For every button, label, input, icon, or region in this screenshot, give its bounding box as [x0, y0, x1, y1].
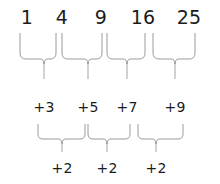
first-difference-4: +9: [164, 100, 185, 114]
first-difference-2: +5: [77, 100, 98, 114]
term-1: 1: [21, 8, 33, 27]
brace-1-4-icon: [20, 33, 56, 64]
brace-5-7-icon: [88, 124, 130, 144]
first-difference-1: +3: [33, 100, 54, 114]
term-5: 25: [177, 8, 202, 27]
term-4: 16: [131, 8, 156, 27]
brace-7-9-icon: [138, 124, 183, 144]
brace-9-16-icon: [107, 33, 145, 64]
term-3: 9: [95, 8, 107, 27]
brace-4-9-icon: [62, 33, 102, 64]
second-difference-1: +2: [51, 161, 72, 175]
brace-16-25-icon: [153, 33, 195, 64]
second-difference-2: +2: [96, 161, 117, 175]
second-difference-3: +2: [145, 161, 166, 175]
brace-3-5-icon: [38, 124, 85, 144]
finite-difference-diagram: 1 4 9 16 25 +3 +5 +7 +9: [0, 0, 220, 184]
term-2: 4: [56, 8, 68, 27]
first-difference-3: +7: [116, 100, 137, 114]
